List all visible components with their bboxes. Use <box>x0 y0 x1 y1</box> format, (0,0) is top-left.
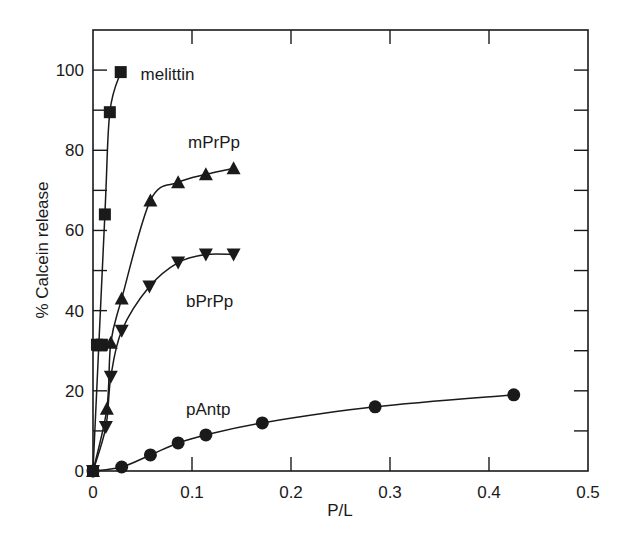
axis-tick-labels: 00.10.20.30.40.5020406080100 <box>56 61 600 502</box>
melittin-marker <box>99 208 111 220</box>
mPrPp-label: mPrPp <box>188 133 240 152</box>
bPrPp-marker <box>171 257 185 270</box>
series-labels: melittinmPrPpbPrPppAntp <box>141 65 240 419</box>
mPrPp-marker <box>171 175 185 188</box>
plot-border <box>93 30 588 471</box>
plot-frame <box>93 30 588 471</box>
mPrPp-marker <box>100 402 114 415</box>
y-axis-title: % Calcein release <box>33 181 52 318</box>
pAntp-marker <box>144 448 157 461</box>
melittin-label: melittin <box>141 65 195 84</box>
axis-ticks <box>93 30 588 471</box>
bPrPp-marker <box>115 325 129 338</box>
y-tick-label: 60 <box>65 221 84 240</box>
x-tick-label: 0.1 <box>180 483 204 502</box>
pAntp-marker <box>369 400 382 413</box>
pAntp-marker <box>172 436 185 449</box>
x-axis-title: P/L <box>327 501 353 520</box>
melittin-marker <box>115 66 127 78</box>
y-tick-label: 80 <box>65 141 84 160</box>
y-tick-label: 0 <box>75 462 84 481</box>
x-tick-label: 0.4 <box>477 483 501 502</box>
bPrPp-marker <box>99 421 113 434</box>
pAntp-label: pAntp <box>186 400 230 419</box>
mPrPp-curve <box>93 168 234 471</box>
pAntp-marker <box>87 465 100 478</box>
y-tick-label: 20 <box>65 382 84 401</box>
x-tick-label: 0.5 <box>576 483 600 502</box>
x-tick-label: 0.2 <box>279 483 303 502</box>
bPrPp-curve <box>93 254 234 471</box>
mPrPp-marker <box>143 193 157 206</box>
mPrPp-marker <box>227 161 241 174</box>
pAntp-marker <box>115 460 128 473</box>
melittin-marker <box>104 106 116 118</box>
pAntp-marker <box>256 416 269 429</box>
y-tick-label: 40 <box>65 302 84 321</box>
bPrPp-marker <box>104 371 118 384</box>
pAntp-marker <box>199 428 212 441</box>
calcein-release-chart: 00.10.20.30.40.5020406080100 melittinmPr… <box>0 0 623 549</box>
bPrPp-label: bPrPp <box>186 292 233 311</box>
pAntp-curve <box>93 395 514 471</box>
y-tick-label: 100 <box>56 61 84 80</box>
x-tick-label: 0.3 <box>378 483 402 502</box>
mPrPp-marker <box>115 292 129 305</box>
series-curves <box>93 72 514 471</box>
pAntp-marker <box>507 388 520 401</box>
x-tick-label: 0 <box>88 483 97 502</box>
